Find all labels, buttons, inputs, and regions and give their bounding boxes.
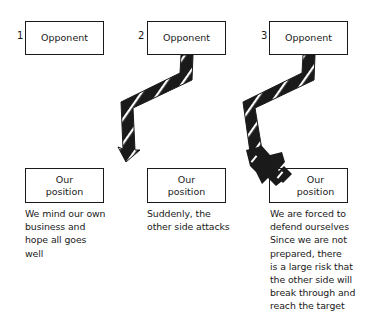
opponent-box-1: Opponent [25, 21, 104, 55]
attack-arrow-panel-3 [243, 55, 315, 186]
panel-number-2: 2 [138, 30, 144, 42]
opponent-label-1: Opponent [41, 32, 88, 44]
our-position-label-1: Our position [46, 174, 84, 198]
our-position-label-3: Our position [283, 174, 335, 198]
opponent-label-3: Opponent [285, 32, 332, 44]
caption-panel-3: We are forced to defend ourselves Since … [270, 207, 355, 313]
opponent-label-2: Opponent [163, 32, 210, 44]
our-position-label-2: Our position [168, 174, 206, 198]
panel-number-3: 3 [261, 30, 267, 42]
attack-arrow-panel-2 [118, 55, 193, 162]
caption-panel-1: We mind our own business and hope all go… [25, 207, 105, 260]
our-position-box-3: Our position [269, 168, 348, 203]
our-position-box-1: Our position [25, 168, 104, 203]
opponent-box-2: Opponent [147, 21, 226, 55]
caption-panel-2: Suddenly, the other side attacks [147, 207, 230, 233]
our-position-box-2: Our position [147, 168, 226, 203]
panel-number-1: 1 [17, 30, 23, 42]
opponent-box-3: Opponent [269, 21, 348, 55]
